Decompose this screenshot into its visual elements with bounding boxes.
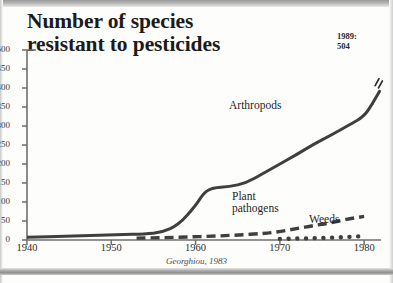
- y-tick-label-150: 150: [0, 177, 10, 187]
- y-tick-label-500: 500: [0, 44, 10, 54]
- y-tick-label-50: 50: [0, 215, 10, 225]
- series-label-plant-pathogens-line2: pathogens: [232, 202, 279, 214]
- x-tick-label-1950: 1950: [91, 242, 131, 253]
- series-label-weeds: Weeds: [309, 213, 339, 225]
- y-tick-label-200: 200: [0, 158, 10, 168]
- series-line-arthropods-break-jump: [373, 91, 380, 103]
- series-label-plant-pathogens-line1: Plant: [232, 190, 256, 202]
- x-tick-label-1980: 1980: [344, 242, 384, 253]
- y-tick-label-450: 450: [0, 63, 10, 73]
- y-tick-label-250: 250: [0, 139, 10, 149]
- scan-band-bottom: [0, 268, 393, 275]
- x-tick-label-1970: 1970: [260, 242, 300, 253]
- series-label-arthropods: Arthropods: [229, 99, 281, 111]
- axis-break-slash-2: [379, 81, 383, 88]
- chart-figure: Number of species resistant to pesticide…: [0, 0, 393, 283]
- chart-source-caption: Georghiou, 1983: [0, 256, 393, 266]
- y-tick-label-100: 100: [0, 196, 10, 206]
- axis-break-mark: [373, 79, 383, 104]
- series-line-weeds: [280, 236, 364, 239]
- x-tick-label-1960: 1960: [176, 242, 216, 253]
- chart-plot-area: [0, 0, 393, 283]
- axis-break-slash-1: [375, 79, 379, 86]
- y-tick-label-400: 400: [0, 82, 10, 92]
- y-tick-label-300: 300: [0, 120, 10, 130]
- y-tick-label-350: 350: [0, 101, 10, 111]
- series-label-plant-pathogens: Plant pathogens: [232, 190, 279, 214]
- x-tick-label-1940: 1940: [7, 242, 47, 253]
